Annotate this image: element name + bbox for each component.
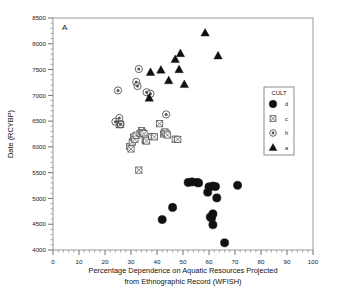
legend-label-c: c xyxy=(285,116,288,122)
x-tick-label: 0 xyxy=(51,258,55,265)
legend-box xyxy=(264,87,294,155)
data-point xyxy=(175,136,181,142)
y-axis-title: Date (RCYBP) xyxy=(6,110,15,158)
filled-circle-marker xyxy=(209,210,217,218)
filled-circle-marker xyxy=(158,215,166,223)
y-tick-label: 7500 xyxy=(32,66,46,73)
x-tick-label: 20 xyxy=(102,258,109,265)
circled-dot-center xyxy=(165,113,168,116)
data-point xyxy=(164,132,170,138)
filled-circle-marker xyxy=(269,100,277,108)
circled-dot-center xyxy=(118,117,121,120)
data-point xyxy=(234,181,242,189)
filled-circle-marker xyxy=(195,179,203,187)
legend-label-h: h xyxy=(285,130,288,136)
y-tick-label: 8000 xyxy=(32,40,46,47)
x-tick-label: 80 xyxy=(258,258,265,265)
circled-dot-center xyxy=(137,68,140,71)
x-axis-title-line2: from Ethnographic Record (WFISH) xyxy=(124,277,241,286)
filled-circle-marker xyxy=(234,181,242,189)
x-tick-label: 10 xyxy=(76,258,83,265)
data-point xyxy=(209,221,217,229)
legend[interactable]: CULT dcha xyxy=(264,87,294,155)
x-tick-label: 50 xyxy=(180,258,187,265)
x-tick-label: 30 xyxy=(128,258,135,265)
legend-marker-d xyxy=(269,100,277,108)
data-point xyxy=(151,134,157,140)
filled-circle-marker xyxy=(209,221,217,229)
legend-title: CULT xyxy=(271,90,287,96)
circled-dot-center xyxy=(272,132,275,135)
y-tick-label: 7000 xyxy=(32,92,46,99)
legend-marker-c xyxy=(270,116,276,122)
y-tick-label: 6500 xyxy=(32,117,46,124)
filled-circle-marker xyxy=(169,203,177,211)
data-point xyxy=(195,179,203,187)
y-tick-label: 4000 xyxy=(32,246,46,253)
filled-circle-marker xyxy=(221,239,229,247)
data-point xyxy=(128,146,134,152)
data-point xyxy=(209,210,217,218)
legend-label-d: d xyxy=(285,101,288,107)
y-tick-label: 8500 xyxy=(32,14,46,21)
x-tick-label: 100 xyxy=(308,258,319,265)
x-tick-label: 40 xyxy=(154,258,161,265)
x-tick-label: 90 xyxy=(284,258,291,265)
x-tick-label: 60 xyxy=(206,258,213,265)
data-point xyxy=(157,121,163,127)
data-point xyxy=(136,167,142,173)
filled-circle-marker xyxy=(211,182,219,190)
y-tick-label: 5500 xyxy=(32,169,46,176)
data-point xyxy=(158,215,166,223)
data-point xyxy=(169,203,177,211)
scatter-plot-figure: 0102030405060708090100 40004500500055006… xyxy=(0,0,345,295)
y-tick-label: 5000 xyxy=(32,195,46,202)
circled-dot-center xyxy=(117,89,120,92)
panel-label: A xyxy=(62,23,68,32)
x-axis-title-line1: Percentage Dependence on Aquatic Resourc… xyxy=(89,266,278,275)
circled-dot-center xyxy=(136,85,139,88)
circled-dot-center xyxy=(119,123,122,126)
y-tick-label: 6000 xyxy=(32,143,46,150)
chart-svg: 0102030405060708090100 40004500500055006… xyxy=(0,0,345,295)
data-point xyxy=(213,194,221,202)
data-point xyxy=(211,182,219,190)
x-tick-label: 70 xyxy=(232,258,239,265)
data-point xyxy=(221,239,229,247)
y-tick-label: 4500 xyxy=(32,220,46,227)
filled-circle-marker xyxy=(213,194,221,202)
